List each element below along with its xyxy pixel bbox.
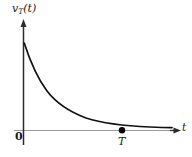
decay-curve <box>24 43 172 128</box>
x-axis-group <box>14 128 181 134</box>
marked-point-T <box>119 127 125 133</box>
origin-label: 0 <box>15 131 23 142</box>
figure-container: vT(t) t 0 T <box>0 0 192 157</box>
x-axis-arrowhead <box>174 128 182 134</box>
plot-svg <box>0 0 192 157</box>
y-axis-arrowhead <box>21 19 27 27</box>
y-axis-label: vT(t) <box>12 3 36 15</box>
y-axis-group <box>21 19 27 145</box>
x-axis-label: t <box>182 122 186 133</box>
y-axis-label-argument: (t) <box>23 2 36 15</box>
marked-point-label-T: T <box>118 136 125 147</box>
